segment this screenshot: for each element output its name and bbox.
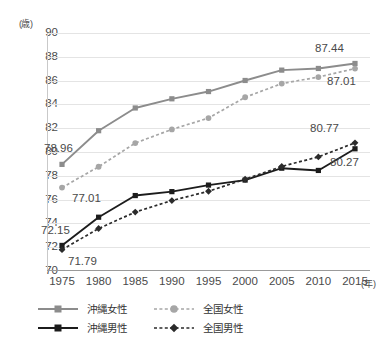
data-point-marker (95, 225, 102, 232)
label-national-female-end: 87.01 (327, 76, 356, 88)
data-point-marker (132, 209, 139, 216)
legend-swatch-沖縄女性 (36, 302, 80, 316)
legend-label: 全国女性 (203, 301, 243, 316)
series-container (47, 33, 370, 271)
legend-row: 沖縄女性全国女性 (36, 299, 366, 318)
data-point-marker (169, 96, 174, 101)
data-point-marker (316, 168, 321, 173)
data-point-marker (133, 105, 138, 110)
data-point-marker (315, 74, 321, 80)
data-point-marker (168, 197, 175, 204)
data-point-marker (132, 140, 138, 146)
legend-item-全国女性[interactable]: 全国女性 (152, 301, 243, 316)
chart-legend: 沖縄女性全国女性沖縄男性全国男性 (36, 299, 366, 337)
legend-label: 沖縄女性 (87, 301, 127, 316)
series-全国男性 (59, 139, 359, 253)
data-point-marker (352, 139, 359, 146)
legend-label: 全国男性 (203, 320, 243, 335)
legend-item-全国男性[interactable]: 全国男性 (152, 320, 243, 335)
data-point-marker (96, 164, 102, 170)
label-national-female-start: 77.01 (72, 193, 101, 205)
legend-swatch-全国男性 (152, 321, 196, 335)
legend-item-沖縄女性[interactable]: 沖縄女性 (36, 301, 152, 316)
series-line (62, 143, 355, 250)
legend-swatch-全国女性 (152, 302, 196, 316)
series-沖縄女性 (59, 61, 357, 167)
data-point-marker (96, 128, 101, 133)
legend-swatch-沖縄男性 (36, 321, 80, 335)
data-point-marker (279, 68, 284, 73)
data-point-marker (352, 66, 358, 72)
data-point-marker (316, 66, 321, 71)
data-point-marker (59, 162, 64, 167)
data-point-marker (352, 61, 357, 66)
legend-row: 沖縄男性全国男性 (36, 318, 366, 337)
data-point-marker (169, 189, 174, 194)
data-point-marker (59, 185, 65, 191)
label-okinawa-male-start: 72.15 (41, 225, 70, 237)
life-expectancy-line-chart: (歳) 9088868482807876747270 1975198019851… (0, 0, 388, 348)
legend-item-沖縄男性[interactable]: 沖縄男性 (36, 320, 152, 335)
plot-area (47, 33, 370, 271)
label-national-male-end: 80.77 (310, 123, 339, 135)
series-沖縄男性 (59, 146, 357, 248)
label-okinawa-female-start: 78.96 (44, 143, 73, 155)
data-point-marker (205, 188, 212, 195)
data-point-marker (315, 153, 322, 160)
data-point-marker (206, 89, 211, 94)
data-point-marker (133, 193, 138, 198)
legend-label: 沖縄男性 (87, 320, 127, 335)
data-point-marker (96, 215, 101, 220)
series-line (62, 149, 355, 246)
data-point-marker (279, 81, 285, 87)
label-national-male-start: 71.79 (68, 256, 97, 268)
data-point-marker (169, 126, 175, 132)
data-point-marker (206, 182, 211, 187)
data-point-marker (243, 78, 248, 83)
data-point-marker (206, 115, 212, 121)
x-axis-unit-label: (年) (361, 277, 376, 290)
series-line (62, 63, 355, 164)
data-point-marker (242, 94, 248, 100)
label-okinawa-male-end: 80.27 (330, 157, 359, 169)
label-okinawa-female-end: 87.44 (315, 43, 344, 55)
data-point-marker (352, 146, 357, 151)
